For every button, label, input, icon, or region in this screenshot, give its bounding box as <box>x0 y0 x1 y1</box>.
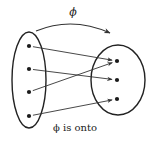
codomain-element-dot <box>115 78 119 82</box>
domain-elements <box>27 44 31 118</box>
codomain-elements <box>115 59 119 101</box>
domain-element-dot <box>27 67 31 71</box>
codomain-element-dot <box>115 97 119 101</box>
codomain-set <box>91 45 145 115</box>
domain-element-dot <box>27 114 31 118</box>
onto-function-diagram: ϕ ϕ is onto <box>0 0 152 141</box>
mapping-arrows <box>33 47 113 116</box>
domain-element-dot <box>27 44 31 48</box>
function-arc-arrow <box>36 24 110 33</box>
domain-element-dot <box>27 90 31 94</box>
diagram-caption: ϕ is onto <box>53 122 97 133</box>
function-label: ϕ <box>69 6 77 19</box>
codomain-element-dot <box>115 59 119 63</box>
mapping-arrow <box>33 69 112 79</box>
